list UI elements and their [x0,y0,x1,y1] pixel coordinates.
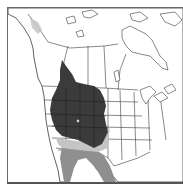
location-dot [77,120,80,123]
range-map [0,0,183,195]
map-frame-bottom-edge [7,182,183,184]
